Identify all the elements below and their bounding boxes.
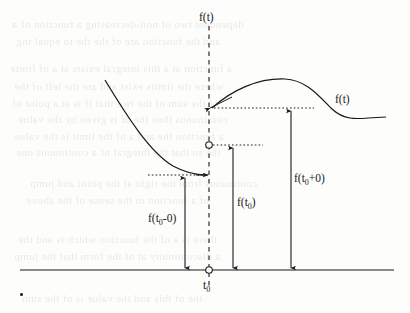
- discontinuity-diagram: [0, 0, 410, 313]
- right-limit-label: f(t0+0): [294, 173, 325, 185]
- left-limit-label-head: f(t: [148, 212, 159, 224]
- curve-function-label: f(t): [335, 94, 350, 106]
- right-limit-label-tail: +0): [309, 172, 325, 184]
- t-zero-label-sub: 0: [206, 285, 210, 294]
- axis-function-label: f(t): [199, 12, 214, 24]
- value-label-sub: 0: [248, 202, 252, 211]
- t-zero-label: t0: [203, 280, 210, 292]
- left-limit-label-tail: -0): [163, 212, 176, 224]
- open-circle-value-marker: [206, 142, 213, 149]
- left-limit-label-sub: 0: [159, 218, 163, 227]
- right-curve-branch: [212, 79, 386, 119]
- figure-container: dependent two of non-decreasing a functi…: [0, 0, 410, 313]
- arrow-to-right-limit-point: [210, 97, 232, 108]
- left-curve-branch: [105, 80, 206, 175]
- page-corner-dot: [20, 293, 23, 296]
- right-limit-label-head: f(t: [294, 172, 305, 184]
- value-label-tail: ): [252, 196, 256, 208]
- value-label-head: f(t: [237, 196, 248, 208]
- value-at-point-label: f(t0): [237, 197, 256, 209]
- open-circle-t0-marker: [206, 267, 213, 274]
- right-limit-label-sub: 0: [305, 178, 309, 187]
- left-limit-label: f(t0-0): [148, 213, 176, 225]
